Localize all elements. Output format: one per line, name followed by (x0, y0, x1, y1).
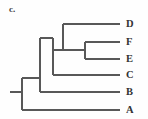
taxon-label-F: F (126, 37, 132, 47)
cladogram-figure: c. D F E C (0, 0, 148, 119)
taxon-label-C: C (126, 70, 134, 80)
taxon-label-E: E (126, 54, 133, 64)
taxon-label-B: B (126, 87, 133, 97)
taxon-label-D: D (126, 19, 134, 29)
taxon-label-A: A (126, 105, 134, 115)
